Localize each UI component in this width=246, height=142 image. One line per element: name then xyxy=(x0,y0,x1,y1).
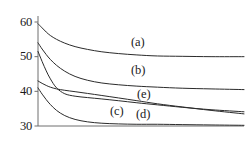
label-c: (c) xyxy=(110,105,124,117)
label-b: (b) xyxy=(131,64,145,76)
label-e: (e) xyxy=(137,88,151,100)
chart-plot-area xyxy=(0,0,246,142)
label-a: (a) xyxy=(131,36,145,48)
curve-e xyxy=(38,51,244,111)
y-tick-label-60: 60 xyxy=(10,16,32,28)
axis-tick-marks xyxy=(35,22,39,126)
y-tick-label-40: 40 xyxy=(10,85,32,97)
chart-container: 60504030 (a)(b)(e)(c)(d) xyxy=(0,0,246,142)
label-d: (d) xyxy=(136,108,150,120)
y-tick-label-50: 50 xyxy=(10,50,32,62)
y-tick-label-30: 30 xyxy=(10,120,32,132)
